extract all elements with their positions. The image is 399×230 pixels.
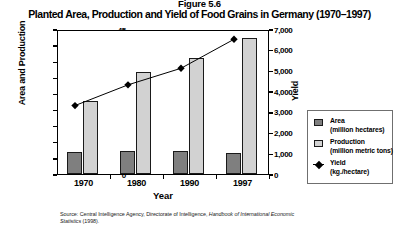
legend-series-unit: (million metric tons) [330, 147, 393, 156]
production-swatch-icon [314, 140, 323, 147]
x-axis-tick-label: 1970 [59, 178, 109, 188]
x-axis-tick-label: 1990 [165, 178, 215, 188]
yield-polyline [75, 39, 234, 105]
legend-item: Area(million hectares) [314, 118, 392, 139]
plot-area [57, 30, 269, 175]
area-swatch-icon [314, 119, 323, 126]
legend-series-name: Yield [330, 159, 369, 168]
source-suffix: (1998). [81, 218, 99, 224]
chart-title: Planted Area, Production and Yield of Fo… [0, 8, 399, 20]
legend-label: Production(million metric tons) [330, 138, 393, 155]
diamond-marker-icon [314, 161, 323, 168]
yield-marker [124, 81, 131, 88]
y-axis-right-tick-label: 7,000 [274, 26, 314, 35]
legend-label: Area(million hectares) [330, 117, 384, 134]
yield-line-layer [58, 31, 268, 174]
y-axis-right-tick-label: 5,000 [274, 67, 314, 76]
y-axis-left-label: Area and Production [17, 13, 27, 113]
yield-line [58, 31, 270, 176]
y-axis-right-tick-label: 6,000 [274, 46, 314, 55]
yield-marker [177, 65, 184, 72]
source-note: Source: Central Intelligence Agency, Dir… [60, 211, 310, 224]
legend-series-unit: (kg./hectare) [330, 168, 369, 177]
yield-marker [230, 36, 237, 43]
x-axis-tick-label: 1997 [218, 178, 268, 188]
legend-series-name: Area [330, 117, 384, 126]
legend-series-name: Production [330, 138, 393, 147]
y-axis-right-tick-label: 4,000 [274, 88, 314, 97]
x-axis-label: Year [57, 190, 269, 201]
legend-item: Yield(kg./hectare) [314, 160, 392, 181]
chart-legend: Area(million hectares)Production(million… [307, 110, 393, 184]
legend-item: Production(million metric tons) [314, 139, 392, 160]
x-axis-tick-label: 1980 [112, 178, 162, 188]
legend-label: Yield(kg./hectare) [330, 159, 369, 176]
yield-marker [71, 102, 78, 109]
source-prefix: Source: Central Intelligence Agency, Dir… [60, 211, 209, 217]
legend-series-unit: (million hectares) [330, 126, 384, 135]
